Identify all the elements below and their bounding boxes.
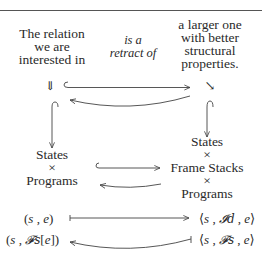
middle-retraction-arrow-icon: [100, 184, 161, 187]
right-injection-arrow-icon: [207, 101, 213, 137]
middle-injection-arrow-icon: [96, 163, 160, 168]
top-injection-arrow-icon: [64, 82, 190, 88]
mapsto-arrow-icon: [70, 215, 189, 221]
left-injection-arrow-icon: [52, 102, 58, 148]
top-retraction-arrow-icon: [70, 96, 190, 106]
arrows-layer: [0, 0, 271, 266]
mapsfrom-arrow-icon: [70, 236, 191, 248]
